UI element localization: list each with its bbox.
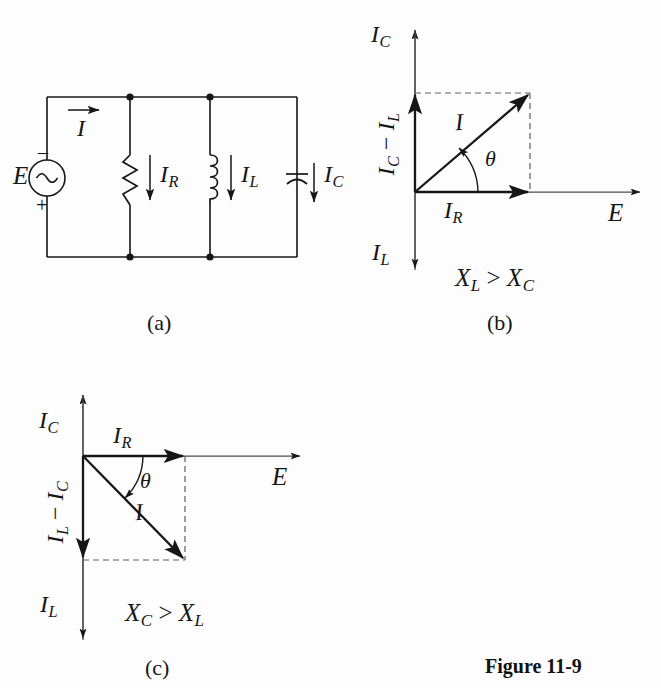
condition-b-operator: > <box>487 264 501 291</box>
inductor-current-label: IL <box>241 162 259 191</box>
axis-label-E-c: E <box>272 464 287 489</box>
subfigure-label-b: (b) <box>487 310 513 336</box>
figure-caption: Figure 11-9 <box>485 655 582 678</box>
junction-dot-bottom-right <box>206 253 213 260</box>
phasor-diagram-b <box>415 30 640 270</box>
junction-dot-top-left <box>126 93 133 100</box>
junction-dot-top-right <box>206 93 213 100</box>
phasor-label-IR-b-letter: I <box>444 197 452 223</box>
resistor-current-label: IR <box>160 162 178 191</box>
resistor-symbol <box>123 155 137 205</box>
capacitor-current-letter: I <box>324 161 332 187</box>
phasor-label-IR-c-subscript: R <box>121 433 131 452</box>
axis-label-IC-b-subscript: C <box>379 32 390 51</box>
condition-b-rhs-sub: C <box>522 276 534 295</box>
condition-c-rhs-sub: L <box>194 611 204 630</box>
figure-vector-layer <box>0 0 661 688</box>
condition-b-lhs: X <box>455 264 470 291</box>
phasor-label-I-resultant-b: I <box>454 110 463 134</box>
phasor-vectors-c <box>83 456 183 558</box>
condition-c-lhs: X <box>125 599 140 626</box>
axis-label-IC-b-letter: I <box>371 21 379 47</box>
axis-label-IC-c-subscript: C <box>47 418 58 437</box>
phasor-I-resultant-c <box>83 456 183 558</box>
condition-c-operator: > <box>158 599 172 626</box>
capacitor-current-label: IC <box>324 162 343 191</box>
source-label-E: E <box>13 163 28 188</box>
phasor-label-IC-minus-IL: IC − IL <box>374 69 403 219</box>
axis-label-IL-c-subscript: L <box>48 602 58 621</box>
axis-label-IL-c-letter: I <box>40 591 48 617</box>
angle-label-theta-b: θ <box>485 148 496 170</box>
phasor-label-IR-c-letter: I <box>113 422 121 448</box>
phasor-label-IR-b-subscript: R <box>452 208 462 227</box>
circuit-current-arrows <box>68 110 314 202</box>
source-polarity-minus: – <box>38 142 48 162</box>
subfigure-label-a: (a) <box>147 310 171 336</box>
ac-source-symbol <box>29 160 65 196</box>
axis-label-E-b: E <box>608 200 623 225</box>
total-current-letter: I <box>77 115 85 141</box>
axis-label-IC-c: IC <box>39 408 58 437</box>
axis-label-IC-b: IC <box>371 22 390 51</box>
condition-c-rhs: X <box>179 599 194 626</box>
angle-arc-b <box>459 148 478 192</box>
inductor-symbol <box>210 155 218 205</box>
phasor-I-resultant-b <box>415 95 528 192</box>
subfigure-label-c: (c) <box>145 655 169 681</box>
phasor-label-I-resultant-c: I <box>134 500 144 524</box>
phasor-label-IC-minus-IL-text: I <box>373 168 399 176</box>
phasor-label-IR-b: IR <box>444 198 462 227</box>
source-polarity-plus: + <box>36 195 48 216</box>
resistor-current-subscript: R <box>168 172 178 191</box>
total-current-label: I <box>77 116 85 140</box>
condition-b-lhs-sub: L <box>470 276 480 295</box>
axis-label-IL-c: IL <box>40 592 58 621</box>
axis-label-IL-b-subscript: L <box>380 250 390 269</box>
capacitor-current-subscript: C <box>332 172 343 191</box>
phasor-vectors-b <box>415 95 528 192</box>
axis-label-IL-b-letter: I <box>372 239 380 265</box>
resistor-current-letter: I <box>160 161 168 187</box>
condition-c-lhs-sub: C <box>140 611 152 630</box>
condition-label-b: XL > XC <box>455 265 534 294</box>
phasor-label-IL-minus-IC: IL − IC <box>43 437 72 587</box>
figure-page: E – + I IR IL IC (a) IC IL IC − IL IR I … <box>0 0 661 688</box>
axis-label-IL-b: IL <box>372 240 390 269</box>
junction-dot-bottom-left <box>126 253 133 260</box>
axis-label-IC-c-letter: I <box>39 407 47 433</box>
condition-label-c: XC > XL <box>125 600 204 629</box>
inductor-current-letter: I <box>241 161 249 187</box>
condition-b-rhs: X <box>507 264 522 291</box>
phasor-label-IR-c: IR <box>113 423 131 452</box>
inductor-current-subscript: L <box>249 172 259 191</box>
angle-label-theta-c: θ <box>140 470 151 492</box>
